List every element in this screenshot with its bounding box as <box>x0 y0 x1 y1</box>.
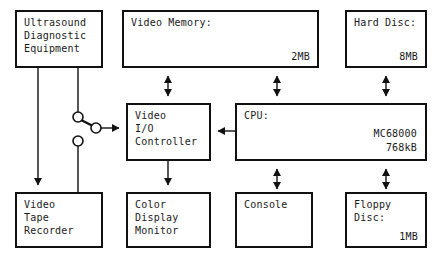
node-color-display-monitor-label: Color Display Monitor <box>135 198 179 237</box>
node-floppy-disc-label: Floppy Disc: <box>354 198 391 224</box>
node-hard-disc-capacity: 8MB <box>399 50 418 63</box>
node-video-io-controller-label: Video I/O Controller <box>135 109 197 148</box>
switch-terminal-top-icon[interactable] <box>73 112 83 122</box>
node-video-memory[interactable]: Video Memory: 2MB <box>122 10 319 68</box>
node-console[interactable]: Console <box>235 192 313 248</box>
node-video-memory-label: Video Memory: <box>131 16 212 29</box>
node-hard-disc-label: Hard Disc: <box>354 16 416 29</box>
node-cpu-spec: MC68000 768kB <box>373 127 417 155</box>
node-ultrasound-label: Ultrasound Diagnostic Equipment <box>24 16 86 55</box>
node-video-tape-recorder[interactable]: Video Tape Recorder <box>15 192 103 248</box>
node-console-label: Console <box>244 198 288 211</box>
node-video-tape-recorder-label: Video Tape Recorder <box>24 198 74 237</box>
node-video-memory-capacity: 2MB <box>291 50 310 63</box>
node-floppy-disc-capacity: 1MB <box>399 230 418 243</box>
node-hard-disc[interactable]: Hard Disc: 8MB <box>345 10 427 68</box>
node-video-io-controller[interactable]: Video I/O Controller <box>126 103 211 161</box>
switch-common-terminal-icon[interactable] <box>91 123 101 133</box>
node-color-display-monitor[interactable]: Color Display Monitor <box>126 192 211 248</box>
switch-terminal-bottom-icon[interactable] <box>73 136 83 146</box>
node-cpu[interactable]: CPU: MC68000 768kB <box>235 103 427 161</box>
node-ultrasound-diagnostic-equipment[interactable]: Ultrasound Diagnostic Equipment <box>15 10 103 68</box>
node-floppy-disc[interactable]: Floppy Disc: 1MB <box>345 192 427 248</box>
block-diagram: Ultrasound Diagnostic Equipment Video Me… <box>0 0 437 256</box>
node-cpu-label: CPU: <box>244 109 269 122</box>
